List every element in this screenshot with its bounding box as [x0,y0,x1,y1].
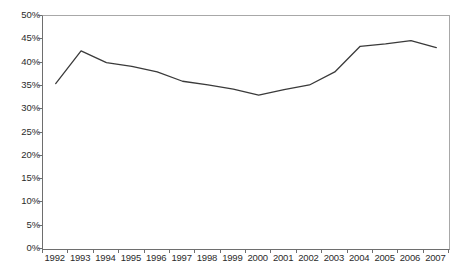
y-tick-label: 50% [2,10,40,20]
plot-area [42,15,450,250]
x-tick-mark [67,249,68,253]
x-tick-label: 1994 [93,252,118,268]
x-tick-mark [296,249,297,253]
x-tick-mark [270,249,271,253]
y-tick-mark [38,178,42,179]
y-tick-mark [38,15,42,16]
y-tick-label: 30% [2,103,40,113]
y-tick-label: 0% [2,243,40,253]
x-tick-mark [448,249,449,253]
x-tick-mark [169,249,170,253]
y-tick-mark [38,85,42,86]
y-tick-mark [38,155,42,156]
x-tick-label: 1997 [169,252,194,268]
x-tick-label: 2001 [270,252,295,268]
line-chart: 0%5%10%15%20%25%30%35%40%45%50% 19921993… [0,0,458,279]
y-tick-mark [38,108,42,109]
y-tick-label: 10% [2,196,40,206]
x-tick-mark [93,249,94,253]
y-tick-label: 35% [2,80,40,90]
x-tick-mark [347,249,348,253]
x-axis: 1992199319941995199619971998199920002001… [42,252,448,268]
x-tick-label: 2004 [347,252,372,268]
y-tick-label: 45% [2,33,40,43]
y-axis: 0%5%10%15%20%25%30%35%40%45%50% [0,0,40,279]
data-line-svg [43,16,449,249]
x-tick-label: 2002 [296,252,321,268]
y-tick-label: 15% [2,173,40,183]
y-tick-label: 40% [2,57,40,67]
x-tick-mark [144,249,145,253]
y-tick-mark [38,132,42,133]
x-tick-label: 1993 [67,252,92,268]
x-tick-label: 2007 [423,252,448,268]
y-tick-mark [38,38,42,39]
x-tick-label: 2000 [245,252,270,268]
x-tick-mark [220,249,221,253]
x-tick-label: 2005 [372,252,397,268]
x-tick-mark [397,249,398,253]
x-tick-label: 1998 [194,252,219,268]
y-tick-mark [38,62,42,63]
y-tick-label: 20% [2,150,40,160]
y-tick-label: 25% [2,127,40,137]
x-tick-label: 1996 [144,252,169,268]
x-tick-mark [372,249,373,253]
x-tick-label: 1999 [220,252,245,268]
y-tick-mark [38,201,42,202]
x-tick-label: 2006 [397,252,422,268]
series-line [56,41,437,96]
x-tick-mark [321,249,322,253]
x-tick-mark [423,249,424,253]
y-tick-mark [38,225,42,226]
y-tick-label: 5% [2,220,40,230]
x-tick-mark [42,249,43,253]
x-tick-label: 1992 [42,252,67,268]
x-tick-label: 1995 [118,252,143,268]
x-tick-mark [194,249,195,253]
x-tick-mark [118,249,119,253]
x-tick-label: 2003 [321,252,346,268]
x-tick-mark [245,249,246,253]
